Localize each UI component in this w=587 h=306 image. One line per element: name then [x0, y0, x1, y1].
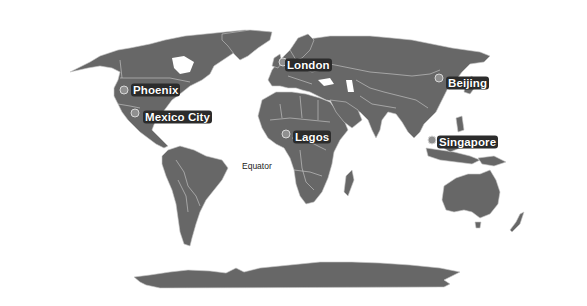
- city-label-london[interactable]: London: [285, 59, 332, 72]
- world-map[interactable]: [0, 0, 587, 306]
- city-marker-beijing[interactable]: [435, 74, 444, 83]
- city-marker-mexico-city[interactable]: [131, 109, 140, 118]
- madagascar: [344, 170, 354, 196]
- city-label-mexico-city[interactable]: Mexico City: [143, 111, 212, 124]
- australia: [442, 170, 500, 218]
- antarctica: [134, 262, 460, 288]
- philippines: [456, 116, 464, 132]
- city-marker-singapore[interactable]: [428, 136, 437, 145]
- equator-label: Equator: [242, 161, 272, 171]
- city-label-lagos[interactable]: Lagos: [293, 131, 331, 144]
- tasmania: [475, 222, 481, 228]
- new-zealand: [510, 212, 524, 232]
- south-america: [162, 146, 228, 246]
- city-marker-phoenix[interactable]: [120, 86, 129, 95]
- city-label-beijing[interactable]: Beijing: [446, 77, 489, 90]
- city-label-phoenix[interactable]: Phoenix: [131, 84, 180, 97]
- new-guinea: [478, 156, 506, 166]
- city-marker-lagos[interactable]: [282, 130, 291, 139]
- city-label-singapore[interactable]: Singapore: [437, 136, 498, 149]
